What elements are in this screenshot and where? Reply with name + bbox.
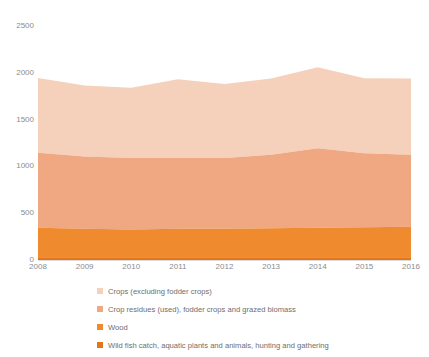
legend-item-label: Wood — [108, 323, 128, 332]
x-axis: 200820092010201120122013201420152016 — [0, 262, 429, 276]
legend-item-label: Crops (excluding fodder crops) — [108, 287, 212, 296]
legend-item-label: Wild fish catch, aquatic plants and anim… — [108, 341, 329, 350]
area-band-crops — [38, 67, 411, 158]
x-axis-tick-label: 2016 — [402, 262, 420, 271]
chart-legend: Crops (excluding fodder crops)Crop resid… — [0, 283, 429, 357]
stacked-area-chart — [0, 0, 429, 278]
x-axis-tick-label: 2008 — [29, 262, 47, 271]
x-axis-tick-label: 2009 — [76, 262, 94, 271]
x-axis-tick-label: 2015 — [355, 262, 373, 271]
area-band-wild-fish-catch — [38, 257, 411, 260]
area-band-wood — [38, 227, 411, 258]
x-axis-tick-label: 2014 — [309, 262, 327, 271]
legend-item[interactable]: Crops (excluding fodder crops) — [97, 283, 212, 299]
legend-swatch-icon — [97, 306, 103, 312]
legend-item-label: Crop residues (used), fodder crops and g… — [108, 305, 296, 314]
chart-series-layer — [38, 67, 411, 260]
legend-swatch-icon — [97, 342, 103, 348]
legend-item[interactable]: Wood — [97, 319, 128, 335]
x-axis-tick-label: 2013 — [262, 262, 280, 271]
chart-plot-area: 25002000150010005000 2008200920102011201… — [0, 0, 429, 278]
chart-page: 25002000150010005000 2008200920102011201… — [0, 0, 429, 357]
x-axis-tick-label: 2010 — [122, 262, 140, 271]
legend-item[interactable]: Wild fish catch, aquatic plants and anim… — [97, 337, 329, 353]
x-axis-tick-label: 2011 — [169, 262, 186, 271]
legend-item[interactable]: Crop residues (used), fodder crops and g… — [97, 301, 296, 317]
x-axis-tick-label: 2012 — [216, 262, 234, 271]
area-band-crop-residues — [38, 148, 411, 229]
legend-swatch-icon — [97, 324, 103, 330]
legend-swatch-icon — [97, 288, 103, 294]
